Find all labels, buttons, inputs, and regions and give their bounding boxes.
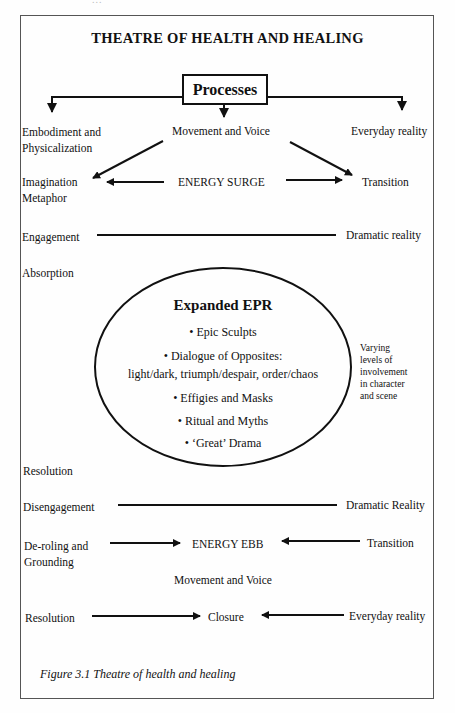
movement-voice-top: Movement and Voice	[172, 123, 270, 139]
resolution-bottom-label: Resolution	[25, 610, 75, 626]
note-line: involvement	[360, 366, 408, 378]
varying-involvement-note: Varying levels of involvement in charact…	[360, 342, 408, 402]
embodiment-line-1: Embodiment and	[22, 124, 101, 140]
transition-bottom: Transition	[367, 535, 414, 551]
deroling-line: De-roling and	[24, 538, 88, 554]
everyday-reality-top: Everyday reality	[351, 123, 427, 139]
disengagement-label: Disengagement	[23, 499, 95, 515]
embodiment-line-2: Physicalization	[22, 140, 101, 156]
note-line: and scene	[360, 390, 408, 402]
imagination-metaphor-label: Imagination Metaphor	[22, 174, 78, 206]
imagination-line: Imagination	[22, 174, 78, 190]
transition-top: Transition	[362, 174, 409, 190]
movement-voice-bottom: Movement and Voice	[174, 572, 272, 588]
deroling-grounding-label: De-roling and Grounding	[24, 538, 88, 570]
diagram-title: THEATRE OF HEALTH AND HEALING	[0, 30, 455, 47]
epr-item-effigies: • Effigies and Masks	[95, 391, 351, 406]
dramatic-reality-top: Dramatic reality	[346, 227, 421, 243]
figure-caption: Figure 3.1 Theatre of health and healing	[40, 667, 235, 682]
closure-label: Closure	[208, 609, 244, 625]
energy-surge-label: ENERGY SURGE	[178, 174, 265, 190]
metaphor-line: Metaphor	[22, 190, 78, 206]
note-line: Varying	[360, 342, 408, 354]
absorption-label: Absorption	[22, 265, 74, 281]
epr-title: Expanded EPR	[95, 297, 351, 314]
processes-box: Processes	[182, 74, 268, 105]
embodiment-label: Embodiment and Physicalization	[22, 124, 101, 156]
engagement-label: Engagement	[22, 229, 79, 245]
energy-ebb-label: ENERGY EBB	[192, 536, 263, 552]
epr-item-epic-sculpts: • Epic Sculpts	[95, 325, 351, 340]
epr-item-opposites: light/dark, triumph/despair, order/chaos	[88, 367, 358, 382]
everyday-reality-bottom: Everyday reality	[349, 608, 425, 624]
epr-item-ritual: • Ritual and Myths	[95, 414, 351, 429]
note-line: levels of	[360, 354, 408, 366]
dramatic-reality-bottom: Dramatic Reality	[346, 497, 425, 513]
grounding-line: Grounding	[24, 554, 88, 570]
epr-item-dialogue: • Dialogue of Opposites:	[95, 349, 351, 364]
epr-item-great-drama: • ‘Great’ Drama	[95, 436, 351, 451]
resolution-mid-label: Resolution	[23, 463, 73, 479]
note-line: in character	[360, 378, 408, 390]
